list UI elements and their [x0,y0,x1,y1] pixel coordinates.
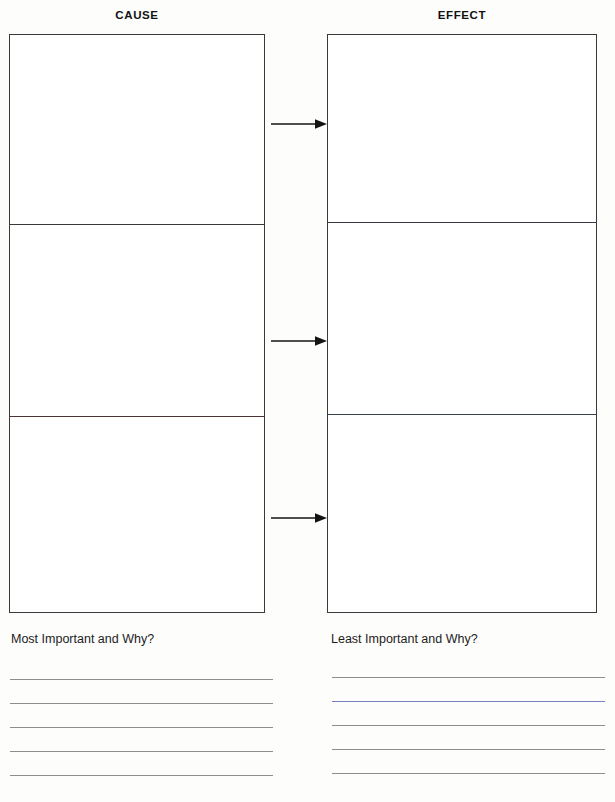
effect-cell-2[interactable] [328,223,596,415]
column-heading-effect: EFFECT [327,9,597,21]
cause-cell-2[interactable] [10,225,264,417]
cause-cell-3[interactable] [10,417,264,611]
answer-line-left-3[interactable] [10,727,273,728]
answer-line-right-2[interactable] [332,701,605,702]
worksheet-page: CAUSE EFFECT Most Important and Why? Lea… [0,0,615,802]
prompt-least-important: Least Important and Why? [331,632,478,646]
answer-line-left-1[interactable] [10,679,273,680]
answer-line-right-3[interactable] [332,725,605,726]
column-heading-cause: CAUSE [9,9,265,21]
effect-cell-3[interactable] [328,415,596,611]
answer-line-right-5[interactable] [332,773,605,774]
answer-line-right-1[interactable] [332,677,605,678]
cause-cell-1[interactable] [10,35,264,225]
flow-arrow-right-icon-3 [271,511,328,525]
answer-line-left-4[interactable] [10,751,273,752]
answer-line-left-5[interactable] [10,775,273,776]
flow-arrow-right-icon-1 [271,117,328,131]
answer-line-left-2[interactable] [10,703,273,704]
cause-box [9,34,265,613]
effect-box [327,34,597,613]
effect-cell-1[interactable] [328,35,596,223]
flow-arrow-right-icon-2 [271,334,328,348]
prompt-most-important: Most Important and Why? [11,632,154,646]
answer-line-right-4[interactable] [332,749,605,750]
